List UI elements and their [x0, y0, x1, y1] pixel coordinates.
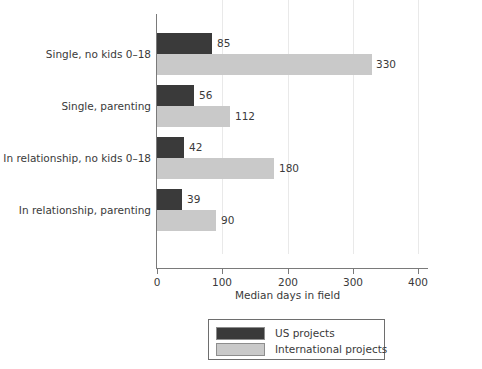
x-tick-100	[222, 269, 223, 274]
x-tick-label-400: 400	[408, 276, 428, 288]
category-label-single-no-kids: Single, no kids 0–18	[0, 48, 151, 60]
x-tick-300	[353, 269, 354, 274]
x-tick-0	[157, 269, 158, 274]
median-days-in-field-bar-chart: 0 100 200 300 400 Median days in field S…	[0, 0, 482, 369]
bar-us-in-relationship-parenting	[157, 189, 182, 210]
legend-item-us-projects: US projects	[216, 326, 335, 340]
x-tick-400	[418, 269, 419, 274]
bar-value-intl-single-no-kids: 330	[376, 58, 396, 70]
bar-intl-in-relationship-parenting	[157, 210, 216, 231]
category-label-in-relationship-no-kids: In relationship, no kids 0–18	[0, 152, 151, 164]
category-label-single-parenting: Single, parenting	[0, 100, 151, 112]
x-axis-line	[156, 268, 428, 269]
gridline-200	[288, 0, 289, 254]
category-label-in-relationship-parenting: In relationship, parenting	[0, 204, 151, 216]
bar-value-intl-in-relationship-no-kids: 180	[279, 162, 299, 174]
x-tick-label-200: 200	[278, 276, 298, 288]
legend-swatch-international-projects	[216, 343, 265, 356]
x-tick-200	[288, 269, 289, 274]
gridline-300	[353, 0, 354, 254]
bar-value-us-in-relationship-parenting: 39	[187, 193, 200, 205]
gridline-400	[418, 0, 419, 254]
bar-intl-single-no-kids	[157, 54, 372, 75]
x-axis-title: Median days in field	[157, 289, 418, 301]
x-tick-label-300: 300	[343, 276, 363, 288]
bar-value-us-in-relationship-no-kids: 42	[189, 141, 202, 153]
bar-intl-in-relationship-no-kids	[157, 158, 274, 179]
bar-value-intl-in-relationship-parenting: 90	[221, 214, 234, 226]
bar-us-in-relationship-no-kids	[157, 137, 184, 158]
bar-value-us-single-parenting: 56	[199, 89, 212, 101]
bar-value-us-single-no-kids: 85	[217, 37, 230, 49]
legend-label-us-projects: US projects	[275, 327, 335, 339]
legend-item-international-projects: International projects	[216, 342, 387, 356]
x-tick-label-100: 100	[212, 276, 232, 288]
legend-label-international-projects: International projects	[275, 343, 387, 355]
bar-intl-single-parenting	[157, 106, 230, 127]
legend-swatch-us-projects	[216, 327, 265, 340]
bar-us-single-no-kids	[157, 33, 212, 54]
bar-us-single-parenting	[157, 85, 194, 106]
legend: US projects International projects	[208, 319, 385, 360]
bar-value-intl-single-parenting: 112	[235, 110, 255, 122]
x-tick-label-0: 0	[154, 276, 161, 288]
